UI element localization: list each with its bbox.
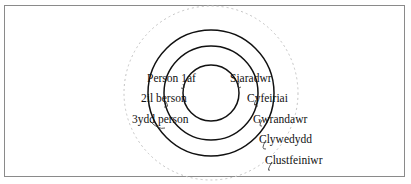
label-cyfeiriai: Cyfeiriai bbox=[247, 93, 288, 105]
label-3ydd-person: 3ydd person bbox=[132, 114, 189, 126]
label-person-1af: Person 1af bbox=[147, 73, 196, 85]
concentric-circles-diagram bbox=[0, 0, 411, 184]
label-clustfeiniwr: Clustfeiniwr bbox=[265, 155, 323, 167]
label-siaradwr: Siaradwr bbox=[230, 73, 272, 85]
label-2il-berson: 2il berson bbox=[141, 93, 187, 105]
leader-person-1af bbox=[181, 84, 184, 89]
label-clywedydd: Clywedydd bbox=[259, 134, 312, 146]
label-gwrandawr: Gwrandawr bbox=[253, 114, 307, 126]
